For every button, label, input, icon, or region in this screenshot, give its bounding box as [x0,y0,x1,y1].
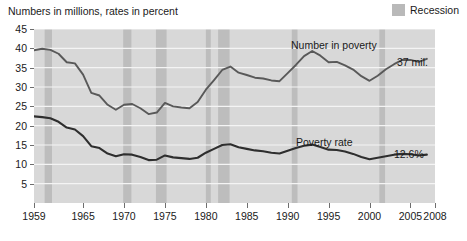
x-tick-label: 1965 [71,210,94,222]
y-tick-label: 35 [15,62,27,74]
line-number-in-poverty [34,49,427,114]
y-tick-label: 30 [15,81,27,93]
y-tick-label: 5 [21,178,27,190]
x-tick-mark [435,203,436,208]
annotation-poverty-rate: Poverty rate [296,136,353,148]
legend: Recession [392,4,459,16]
x-axis: 1959196519701975198019851990199520002005… [0,203,467,241]
annotation-rate-end-value: 12.6% [394,148,424,160]
x-tick-label: 1990 [276,210,299,222]
x-tick-label: 1995 [317,210,340,222]
x-tick-label: 2000 [358,210,381,222]
plot-area [34,29,435,203]
recession-band [379,29,385,203]
recession-band [123,29,131,203]
recession-band [45,29,52,203]
x-tick-label: 2008 [423,210,446,222]
x-tick-mark [83,203,84,208]
legend-item-recession-label: Recession [410,4,459,16]
chart-root: Numbers in millions, rates in percent Re… [0,0,467,241]
recession-band [156,29,167,203]
recession-band [292,29,298,203]
chart-caption: Numbers in millions, rates in percent [8,5,178,17]
x-tick-mark [329,203,330,208]
x-tick-mark [288,203,289,208]
x-tick-mark [370,203,371,208]
series-canvas [34,29,435,203]
y-tick-label: 40 [15,42,27,54]
x-tick-mark [165,203,166,208]
y-tick-label: 10 [15,158,27,170]
x-tick-mark [124,203,125,208]
y-tick-label: 45 [15,23,27,35]
x-tick-mark [247,203,248,208]
recession-band [218,29,229,203]
annotation-number-end-value: 37 mil. [397,56,428,68]
x-tick-mark [206,203,207,208]
x-tick-label: 1985 [235,210,258,222]
x-tick-label: 1959 [22,210,45,222]
y-axis: 51015202530354045 [0,29,31,203]
x-tick-label: 2005 [399,210,422,222]
x-tick-label: 1980 [194,210,217,222]
recession-band [206,29,211,203]
x-tick-label: 1970 [112,210,135,222]
y-tick-label: 15 [15,139,27,151]
x-tick-label: 1975 [153,210,176,222]
x-tick-mark [34,203,35,208]
y-tick-label: 25 [15,100,27,112]
x-tick-mark [410,203,411,208]
line-poverty-rate [34,116,427,160]
y-tick-label: 20 [15,120,27,132]
recession-swatch-icon [392,4,405,16]
annotation-number-in-poverty: Number in poverty [291,39,377,51]
